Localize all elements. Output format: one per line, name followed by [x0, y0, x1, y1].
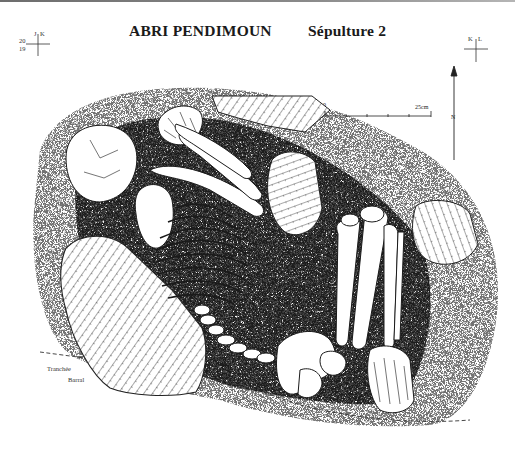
- burial-plan-drawing: [0, 0, 515, 464]
- foot-bones: [368, 346, 414, 413]
- knee: [360, 206, 384, 222]
- grid-marker-right: [464, 39, 488, 62]
- hand-bones-lower: [320, 351, 346, 375]
- north-arrow-head: [451, 66, 457, 76]
- north-arrow: [451, 66, 457, 160]
- grid-marker-left: [26, 34, 50, 56]
